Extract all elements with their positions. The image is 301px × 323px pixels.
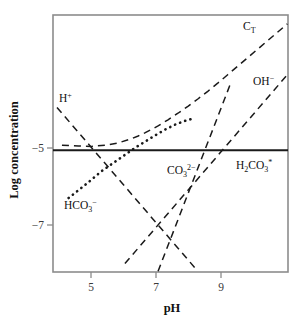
h2co3-base: H xyxy=(236,159,244,171)
co3-superscript: 2− xyxy=(187,163,196,172)
chart-canvas: −5 −7 5 7 9 pH Log concentration CT OH− … xyxy=(0,0,301,323)
h2co3-superscript: * xyxy=(268,158,272,167)
ytick-label-minus5: −5 xyxy=(32,142,44,154)
oh-superscript: − xyxy=(270,74,275,83)
ytick-label-minus7: −7 xyxy=(32,219,44,231)
h-superscript: + xyxy=(67,91,72,100)
h2co3-base2: CO xyxy=(248,159,264,171)
oh-base: OH xyxy=(253,75,270,87)
xtick-label-7: 7 xyxy=(153,281,159,293)
hco3-superscript: − xyxy=(92,198,97,207)
y-axis-title: Log concentration xyxy=(7,101,21,199)
h-base: H xyxy=(59,92,67,104)
xtick-label-9: 9 xyxy=(218,281,224,293)
x-axis-title: pH xyxy=(164,301,181,315)
ct-subscript: T xyxy=(251,26,256,35)
log-concentration-ph-diagram: −5 −7 5 7 9 pH Log concentration CT OH− … xyxy=(0,0,301,323)
hco3-base: HCO xyxy=(64,199,88,211)
xtick-label-5: 5 xyxy=(88,281,94,293)
co3-base: CO xyxy=(167,164,183,176)
